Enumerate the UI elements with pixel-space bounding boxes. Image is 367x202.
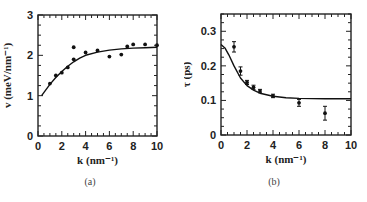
x-tick-label: 0 — [35, 140, 41, 152]
data-point — [297, 101, 301, 105]
x-tick-label: 8 — [130, 140, 136, 152]
data-point — [119, 53, 123, 57]
x-tick-label: 2 — [59, 140, 65, 152]
y-tick-label: 1 — [27, 90, 33, 102]
x-tick-label: 0 — [218, 139, 224, 151]
chart-panel-b: 024681000.10.20.3k (nm⁻¹)τ (ps)(b) — [184, 0, 367, 202]
x-axis-label: k (nm⁻¹) — [266, 153, 307, 166]
y-tick-label: 0.2 — [201, 60, 216, 72]
x-tick-label: 6 — [296, 139, 302, 151]
data-point — [143, 43, 147, 47]
x-tick-label: 8 — [322, 139, 328, 151]
chart-b-svg: 024681000.10.20.3k (nm⁻¹)τ (ps)(b) — [184, 0, 367, 202]
x-axis-label: k (nm⁻¹) — [77, 154, 118, 167]
data-point — [108, 55, 112, 59]
y-tick-label: 0 — [27, 130, 33, 142]
y-tick-label: 3 — [27, 9, 33, 21]
data-point — [131, 43, 135, 47]
figure-caption: (b) — [268, 176, 280, 188]
data-point — [323, 111, 327, 115]
fit-curve — [42, 47, 157, 95]
y-tick-label: 0.1 — [201, 94, 216, 106]
y-axis-label: v (meV/nm⁻¹) — [1, 43, 14, 109]
chart-panel-a: 02468100123k (nm⁻¹)v (meV/nm⁻¹)(a) — [0, 0, 184, 202]
data-point — [239, 69, 243, 73]
chart-a-svg: 02468100123k (nm⁻¹)v (meV/nm⁻¹)(a) — [0, 0, 184, 202]
y-tick-label: 0 — [210, 129, 216, 141]
data-point — [84, 51, 88, 55]
x-tick-label: 4 — [83, 140, 90, 152]
y-tick-label: 0.3 — [201, 25, 216, 37]
x-tick-label: 4 — [270, 139, 277, 151]
data-point — [155, 43, 159, 47]
x-tick-label: 6 — [106, 140, 112, 152]
x-tick-label: 2 — [244, 139, 250, 151]
x-tick-label: 10 — [345, 139, 357, 151]
x-tick-label: 10 — [151, 140, 163, 152]
y-tick-label: 2 — [27, 49, 33, 61]
figure-caption: (a) — [84, 176, 95, 188]
data-point — [72, 45, 76, 49]
y-axis-label: τ (ps) — [184, 61, 193, 87]
data-point — [232, 45, 236, 49]
